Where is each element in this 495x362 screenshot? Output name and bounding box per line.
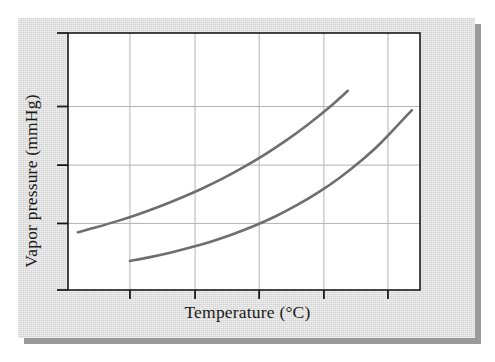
plot-area-background (68, 33, 420, 290)
x-axis-ticks (130, 290, 388, 299)
chart-canvas (18, 18, 475, 338)
figure-root: Vapor pressure (mmHg) Temperature (°C) (0, 0, 495, 362)
x-axis-title: Temperature (°C) (0, 302, 495, 323)
vapor-pressure-chart (18, 18, 475, 338)
y-axis-title: Vapor pressure (mmHg) (21, 94, 42, 267)
